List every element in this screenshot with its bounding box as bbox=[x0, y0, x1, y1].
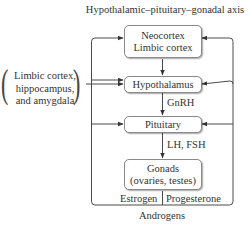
neocortex-label: Neocortex bbox=[141, 30, 185, 42]
pituitary-box: Pituitary bbox=[124, 116, 202, 133]
limbic-input-line3: and amygdala bbox=[10, 95, 80, 108]
lh-fsh-label: LH, FSH bbox=[167, 139, 206, 151]
neocortex-box: Neocortex Limbic cortex bbox=[124, 25, 202, 58]
progesterone-label: Progesterone bbox=[166, 193, 221, 205]
gnrh-label: GnRH bbox=[167, 97, 194, 109]
androgens-label: Androgens bbox=[139, 210, 185, 222]
pituitary-label: Pituitary bbox=[145, 119, 181, 131]
limbic-input-line2: hippocampus, bbox=[10, 83, 80, 96]
hypothalamus-box: Hypothalamus bbox=[124, 76, 202, 93]
gonads-box: Gonads (ovaries, testes) bbox=[124, 159, 202, 190]
limbic-input-group: Limbic cortex, hippocampus, and amygdala bbox=[10, 70, 80, 108]
left-paren: ( bbox=[1, 64, 8, 104]
diagram-title: Hypothalamic–pituitary–gonadal axis bbox=[86, 4, 244, 16]
gonads-detail-label: (ovaries, testes) bbox=[130, 175, 196, 187]
limbic-input-line1: Limbic cortex, bbox=[10, 70, 80, 83]
limbic-cortex-label: Limbic cortex bbox=[133, 42, 192, 54]
gonads-label: Gonads bbox=[147, 163, 179, 175]
right-to-hypothalamus bbox=[202, 81, 233, 84]
estrogen-label: Estrogen bbox=[120, 193, 157, 205]
hypothalamus-label: Hypothalamus bbox=[132, 79, 193, 91]
